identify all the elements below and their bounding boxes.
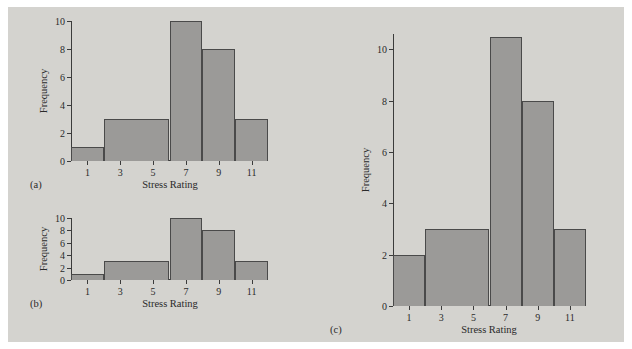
histogram-bar <box>235 261 268 280</box>
y-tick-label: 10 <box>55 16 65 27</box>
y-tick <box>389 49 393 50</box>
x-tick <box>506 306 507 310</box>
y-tick-label: 4 <box>60 250 65 261</box>
y-tick-label: 2 <box>60 128 65 139</box>
histogram-bar <box>235 119 268 161</box>
histogram-b: 0246810 1357911 Frequency Stress Rating … <box>8 192 308 342</box>
histogram-bar <box>104 261 170 280</box>
x-tick-label: 5 <box>151 286 156 297</box>
x-tick <box>120 280 121 284</box>
panel-label-c: (c) <box>330 324 342 335</box>
y-tick <box>67 268 71 269</box>
x-tick <box>87 161 88 165</box>
y-tick <box>67 49 71 50</box>
x-tick-label: 9 <box>216 286 221 297</box>
plot-area-b: 0246810 1357911 <box>71 218 268 280</box>
histogram-c: 0246810 1357911 Frequency Stress Rating … <box>308 7 624 342</box>
bars-a <box>71 21 268 161</box>
histogram-bar <box>522 101 554 306</box>
x-tick-label: 7 <box>503 312 508 323</box>
x-tick <box>252 280 253 284</box>
figure-root: 0246810 1357911 Frequency Stress Rating … <box>0 0 632 349</box>
x-tick-label: 11 <box>565 312 575 323</box>
y-tick <box>67 105 71 106</box>
y-tick <box>67 21 71 22</box>
plot-area-c: 0246810 1357911 <box>393 34 586 306</box>
x-tick-label: 1 <box>85 286 90 297</box>
histogram-bar <box>425 229 489 306</box>
histogram-bar <box>202 49 235 161</box>
y-tick <box>67 133 71 134</box>
histogram-bar <box>554 229 586 306</box>
y-tick-label: 4 <box>60 100 65 111</box>
x-axis-label-a: Stress Rating <box>142 179 198 190</box>
x-tick <box>219 161 220 165</box>
panel-label-b: (b) <box>30 298 42 309</box>
y-tick-label: 0 <box>60 156 65 167</box>
x-tick <box>87 280 88 284</box>
x-tick-label: 7 <box>183 286 188 297</box>
x-tick-label: 3 <box>439 312 444 323</box>
y-tick <box>67 218 71 219</box>
x-tick-label: 5 <box>151 167 156 178</box>
panel-label-a: (a) <box>30 179 42 190</box>
x-tick <box>409 306 410 310</box>
histogram-bar <box>71 147 104 161</box>
y-tick-label: 8 <box>60 225 65 236</box>
x-tick <box>219 280 220 284</box>
x-tick-label: 3 <box>118 167 123 178</box>
histogram-bar <box>170 218 203 280</box>
histogram-bar <box>170 21 203 161</box>
y-tick-label: 6 <box>60 72 65 83</box>
histogram-a: 0246810 1357911 Frequency Stress Rating … <box>8 7 308 192</box>
histogram-bar <box>202 230 235 280</box>
figure-panel: 0246810 1357911 Frequency Stress Rating … <box>8 7 624 342</box>
x-tick <box>186 161 187 165</box>
y-tick <box>389 152 393 153</box>
y-tick-label: 10 <box>55 213 65 224</box>
y-axis-label-c: Frequency <box>360 148 371 192</box>
y-tick <box>67 280 71 281</box>
y-tick-label: 8 <box>60 44 65 55</box>
x-tick <box>538 306 539 310</box>
y-tick-label: 2 <box>382 249 387 260</box>
y-tick-label: 8 <box>382 95 387 106</box>
y-axis-label-a: Frequency <box>38 69 49 113</box>
y-tick <box>389 203 393 204</box>
x-axis-label-b: Stress Rating <box>142 298 198 309</box>
y-tick-label: 6 <box>382 147 387 158</box>
x-tick-label: 1 <box>407 312 412 323</box>
x-tick <box>153 161 154 165</box>
x-tick-label: 7 <box>183 167 188 178</box>
y-tick <box>389 101 393 102</box>
y-tick-label: 10 <box>377 44 387 55</box>
x-tick-label: 11 <box>247 286 257 297</box>
y-tick <box>67 230 71 231</box>
y-tick <box>389 306 393 307</box>
histogram-bar <box>104 119 170 161</box>
x-tick <box>252 161 253 165</box>
x-tick-label: 9 <box>535 312 540 323</box>
plot-area-a: 0246810 1357911 <box>71 21 268 161</box>
y-tick <box>67 243 71 244</box>
y-tick-label: 0 <box>60 275 65 286</box>
y-tick <box>67 255 71 256</box>
x-tick <box>153 280 154 284</box>
x-tick <box>186 280 187 284</box>
bars-b <box>71 218 268 280</box>
y-tick <box>389 255 393 256</box>
y-tick <box>67 161 71 162</box>
y-tick-label: 4 <box>382 198 387 209</box>
histogram-bar <box>490 37 522 306</box>
bars-c <box>393 34 586 306</box>
y-tick-label: 6 <box>60 237 65 248</box>
x-tick-label: 9 <box>216 167 221 178</box>
x-axis-label-c: Stress Rating <box>461 324 517 335</box>
x-tick <box>473 306 474 310</box>
x-tick-label: 1 <box>85 167 90 178</box>
x-tick-label: 5 <box>471 312 476 323</box>
x-tick <box>120 161 121 165</box>
y-tick-label: 0 <box>382 301 387 312</box>
x-tick-label: 3 <box>118 286 123 297</box>
histogram-bar <box>393 255 425 306</box>
